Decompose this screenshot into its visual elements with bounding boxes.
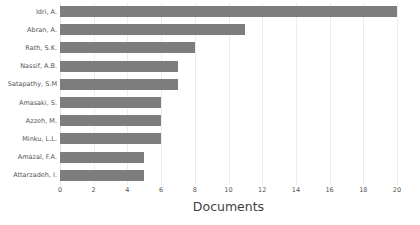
x-tick-label: 14 — [292, 186, 300, 194]
category-label: Satapathy, S.M — [0, 80, 57, 88]
bar — [60, 115, 161, 126]
bar — [60, 42, 195, 53]
category-label: Attarzadeh, I. — [0, 171, 57, 179]
bar — [60, 133, 161, 144]
x-tick-label: 16 — [325, 186, 333, 194]
x-tick-label: 18 — [359, 186, 367, 194]
bar-row — [60, 39, 397, 57]
x-tick-label: 12 — [258, 186, 266, 194]
bar-row — [60, 58, 397, 76]
x-axis-title: Documents — [60, 199, 397, 214]
category-label: Azzeh, M. — [0, 117, 57, 125]
category-label: Abran, A. — [0, 26, 57, 34]
category-label: Amasaki, S. — [0, 99, 57, 107]
category-label: Rath, S.K. — [0, 44, 57, 52]
x-tick-label: 6 — [159, 186, 163, 194]
category-label: Idri, A. — [0, 8, 57, 16]
bar-row — [60, 149, 397, 167]
bar — [60, 97, 161, 108]
x-tick-label: 10 — [224, 186, 232, 194]
bar-row — [60, 94, 397, 112]
x-tick-label: 20 — [393, 186, 401, 194]
bar — [60, 152, 144, 163]
bar-row — [60, 3, 397, 21]
x-tick-label: 4 — [125, 186, 129, 194]
category-axis-labels: Idri, A.Abran, A.Rath, S.K.Nassif, A.B.S… — [0, 3, 57, 185]
x-tick-label: 8 — [193, 186, 197, 194]
bar-row — [60, 167, 397, 185]
bar-row — [60, 112, 397, 130]
bar-chart: Idri, A.Abran, A.Rath, S.K.Nassif, A.B.S… — [0, 0, 420, 225]
bar — [60, 79, 178, 90]
bar-row — [60, 76, 397, 94]
bar-series — [60, 3, 397, 185]
x-axis-ticks: 02468101214161820 — [60, 186, 397, 200]
category-label: Minku, L.L. — [0, 135, 57, 143]
bar-row — [60, 130, 397, 148]
category-label: Amazal, F.A. — [0, 153, 57, 161]
bar-row — [60, 21, 397, 39]
category-label: Nassif, A.B. — [0, 62, 57, 70]
gridline — [397, 3, 398, 185]
bar — [60, 24, 245, 35]
x-tick-label: 2 — [92, 186, 96, 194]
plot-area — [60, 3, 397, 185]
bar — [60, 170, 144, 181]
x-tick-label: 0 — [58, 186, 62, 194]
bar — [60, 6, 397, 17]
bar — [60, 61, 178, 72]
